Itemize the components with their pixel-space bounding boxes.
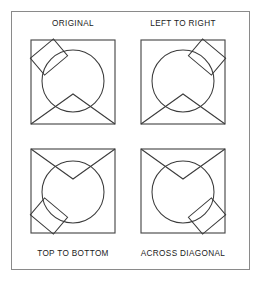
panel-rectangle-top-to-bottom — [30, 198, 67, 234]
panel-square-original — [31, 40, 115, 124]
panel-chevron-left-to-right — [141, 94, 225, 124]
panel-chevron-original — [31, 94, 115, 124]
panel-across-diagonal: ACROSS DIAGONAL — [128, 138, 238, 258]
panel-rectangle-original — [30, 39, 67, 75]
panel-square-top-to-bottom — [31, 149, 115, 233]
panel-square-left-to-right — [141, 40, 225, 124]
panel-rectangle-across-diagonal — [188, 198, 225, 234]
panel-label-original: ORIGINAL — [18, 19, 128, 28]
panel-art-left-to-right — [128, 32, 238, 132]
panel-left-to-right: LEFT TO RIGHT — [128, 18, 238, 138]
figure-root: ORIGINAL LEFT TO RIGHT — [0, 0, 265, 285]
panel-square-across-diagonal — [141, 149, 225, 233]
panel-label-across-diagonal: ACROSS DIAGONAL — [128, 249, 238, 258]
panel-label-top-to-bottom: TOP TO BOTTOM — [18, 249, 128, 258]
panel-top-to-bottom: TOP TO BOTTOM — [18, 138, 128, 258]
panel-chevron-across-diagonal — [141, 149, 225, 179]
panel-art-top-to-bottom — [18, 141, 128, 241]
panel-original: ORIGINAL — [18, 18, 128, 138]
panel-rectangle-left-to-right — [188, 39, 225, 75]
panel-grid: ORIGINAL LEFT TO RIGHT — [0, 0, 265, 285]
panel-circle-original — [42, 50, 104, 112]
panel-chevron-top-to-bottom — [31, 149, 115, 179]
panel-art-original — [18, 32, 128, 132]
panel-circle-left-to-right — [152, 50, 214, 112]
panel-circle-top-to-bottom — [42, 161, 104, 223]
panel-label-left-to-right: LEFT TO RIGHT — [128, 19, 238, 28]
panel-art-across-diagonal — [128, 141, 238, 241]
panel-circle-across-diagonal — [152, 161, 214, 223]
